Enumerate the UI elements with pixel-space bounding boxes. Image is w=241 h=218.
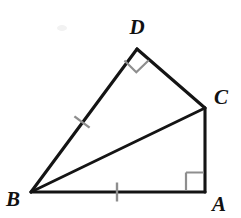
scan-artifact-speck	[57, 25, 67, 31]
segment-dc	[137, 49, 205, 108]
right-angle-mark-a	[186, 173, 204, 192]
vertex-label-b: B	[5, 187, 20, 211]
segment-bc	[31, 108, 205, 192]
geometry-diagram: D C A B	[0, 0, 241, 218]
vertex-label-a: A	[210, 192, 226, 216]
vertex-label-c: C	[214, 85, 229, 109]
segment-bd	[31, 49, 137, 192]
vertex-label-d: D	[128, 15, 144, 39]
geometry-figure-svg: D C A B	[0, 0, 241, 218]
